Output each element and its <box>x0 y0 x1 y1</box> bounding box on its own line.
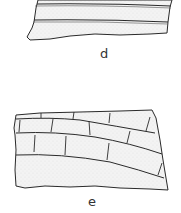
panel-label-e: e <box>88 195 96 208</box>
panel-label-d: d <box>100 47 108 60</box>
fragment-e-drawing <box>14 110 168 190</box>
fragment-d-drawing <box>27 0 172 40</box>
figure-canvas <box>0 0 181 213</box>
